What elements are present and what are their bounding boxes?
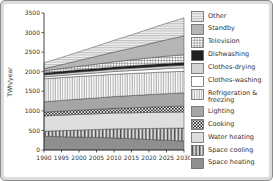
y-tick-label: 500: [29, 127, 41, 134]
legend-swatch-other: [191, 11, 204, 22]
x-tick-label: 2000: [71, 154, 86, 161]
legend-label-space-heating: Space heating: [208, 158, 255, 167]
legend-label-standby: Standby: [208, 24, 235, 33]
legend-swatch-space-heating: [191, 158, 204, 169]
legend-label-refrigeration-freezing: Refrigeration & freezing: [208, 89, 271, 105]
y-tick-label: 0: [36, 146, 40, 153]
legend-swatch-lighting: [191, 106, 204, 117]
legend-item-television: Television: [191, 37, 271, 48]
legend-item-lighting: Lighting: [191, 106, 271, 117]
legend-item-clothes-drying: Clothes-drying: [191, 63, 271, 74]
legend-item-water-heating: Water heating: [191, 132, 271, 143]
y-tick-label: 2500: [25, 48, 40, 55]
stacked-area-chart: 0500100015002000250030003500199019952000…: [4, 4, 190, 172]
legend-item-space-heating: Space heating: [191, 158, 271, 169]
y-axis-title: TWh/year: [6, 67, 14, 98]
x-tick-label: 1990: [36, 154, 51, 161]
legend-label-dishwashing: Dishwashing: [208, 50, 249, 59]
y-tick-label: 1000: [25, 107, 40, 114]
x-tick-label: 2025: [159, 154, 174, 161]
legend-label-clothes-drying: Clothes-drying: [208, 63, 255, 72]
x-tick-label: 2020: [141, 154, 156, 161]
x-tick-label: 1995: [54, 154, 69, 161]
legend-item-space-cooling: Space cooling: [191, 145, 271, 156]
x-tick-label: 2005: [89, 154, 104, 161]
x-tick-label: 2010: [106, 154, 121, 161]
legend-swatch-refrigeration-freezing: [191, 89, 204, 100]
legend-swatch-television: [191, 37, 204, 48]
legend-item-refrigeration-freezing: Refrigeration & freezing: [191, 89, 271, 105]
y-tick-label: 3000: [25, 29, 40, 36]
legend-label-other: Other: [208, 11, 226, 20]
y-tick-label: 1500: [25, 87, 40, 94]
legend-label-water-heating: Water heating: [208, 132, 254, 141]
legend-label-clothes-washing: Clothes-washing: [208, 76, 262, 85]
legend-swatch-clothes-drying: [191, 63, 204, 74]
legend-swatch-standby: [191, 24, 204, 35]
chart-card: 0500100015002000250030003500199019952000…: [4, 4, 269, 177]
legend-label-television: Television: [208, 37, 240, 46]
legend-item-clothes-washing: Clothes-washing: [191, 76, 271, 87]
areas-layer: [44, 18, 184, 150]
x-tick-label: 2030: [176, 154, 190, 161]
x-tick-label: 2015: [124, 154, 139, 161]
legend-swatch-space-cooling: [191, 145, 204, 156]
y-tick-label: 2000: [25, 68, 40, 75]
legend-item-dishwashing: Dishwashing: [191, 50, 271, 61]
chart-legend: OtherStandbyTelevisionDishwashingClothes…: [191, 11, 271, 169]
legend-label-cooking: Cooking: [208, 119, 234, 128]
legend-swatch-cooking: [191, 119, 204, 130]
legend-item-cooking: Cooking: [191, 119, 271, 130]
legend-label-space-cooling: Space cooling: [208, 145, 253, 154]
figure-frame: 0500100015002000250030003500199019952000…: [0, 0, 273, 181]
legend-label-lighting: Lighting: [208, 106, 234, 115]
y-tick-label: 3500: [25, 9, 40, 16]
legend-swatch-clothes-washing: [191, 76, 204, 87]
legend-item-standby: Standby: [191, 24, 271, 35]
legend-swatch-dishwashing: [191, 50, 204, 61]
legend-swatch-water-heating: [191, 132, 204, 143]
legend-item-other: Other: [191, 11, 271, 22]
